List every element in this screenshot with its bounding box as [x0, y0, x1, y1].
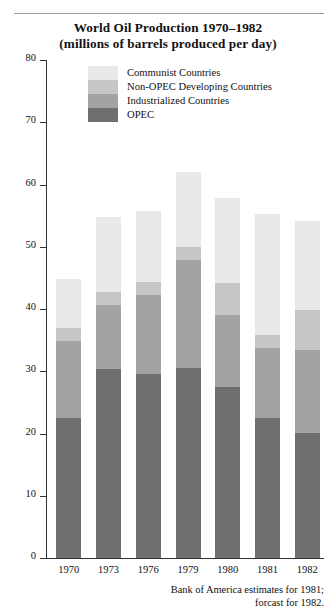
- bar-segment: [136, 282, 161, 295]
- bar-segment: [215, 283, 240, 315]
- bar-segment: [215, 198, 240, 283]
- bar-segment: [215, 315, 240, 387]
- y-axis-tick: 40: [0, 309, 46, 310]
- bar-group-1970: [56, 279, 81, 558]
- bar-segment: [96, 217, 121, 292]
- y-axis-tick-label: 10: [26, 488, 37, 499]
- y-axis-tick: 70: [0, 122, 46, 123]
- chart-footnote: Bank of America estimates for 1981; forc…: [74, 583, 324, 609]
- x-axis-label-1981: 1981: [248, 563, 288, 576]
- y-axis-tick-label: 60: [26, 177, 37, 188]
- y-axis-tick: 50: [0, 247, 46, 248]
- bars-layer: [46, 60, 324, 558]
- bar-segment: [56, 341, 81, 418]
- top-divider-rule: [14, 13, 324, 14]
- x-axis-label-1980: 1980: [208, 563, 248, 576]
- x-axis-label-1979: 1979: [168, 563, 208, 576]
- bar-segment: [136, 374, 161, 558]
- bar-group-1976: [136, 211, 161, 558]
- y-axis-tick-label: 0: [31, 550, 36, 561]
- bar-segment: [96, 292, 121, 304]
- y-axis-tick: 60: [0, 185, 46, 186]
- x-axis-label-1982: 1982: [287, 563, 327, 576]
- bar-segment: [176, 247, 201, 261]
- y-axis-tick-label: 80: [26, 52, 37, 63]
- y-axis-tick-label: 30: [26, 363, 37, 374]
- bar-group-1979: [176, 172, 201, 558]
- bar-group-1973: [96, 217, 121, 558]
- x-axis-label-1973: 1973: [89, 563, 129, 576]
- bar-segment: [215, 387, 240, 558]
- x-axis-labels: 1970197319761979198019811982: [46, 563, 324, 579]
- bar-segment: [56, 418, 81, 558]
- x-axis-label-1976: 1976: [128, 563, 168, 576]
- bar-segment: [176, 368, 201, 558]
- bar-segment: [255, 335, 280, 347]
- bar-segment: [255, 214, 280, 335]
- footnote-line-1: Bank of America estimates for 1981;: [74, 583, 324, 596]
- y-axis-tick: 80: [0, 60, 46, 61]
- bar-segment: [176, 260, 201, 368]
- y-axis-tick-label: 20: [26, 426, 37, 437]
- chart-subtitle: (millions of barrels produced per day): [0, 36, 336, 52]
- bar-segment: [255, 418, 280, 558]
- bar-segment: [295, 221, 320, 310]
- footnote-line-2: forcast for 1982.: [74, 596, 324, 609]
- y-axis-tick-label: 40: [26, 301, 37, 312]
- bar-segment: [255, 348, 280, 418]
- page-title: World Oil Production 1970–1982: [0, 20, 336, 36]
- bar-segment: [96, 369, 121, 558]
- bar-segment: [176, 172, 201, 247]
- y-axis-tick: 0: [0, 558, 46, 559]
- bar-segment: [295, 310, 320, 350]
- bar-group-1982: [295, 221, 320, 558]
- x-axis-label-1970: 1970: [49, 563, 89, 576]
- bar-segment: [56, 279, 81, 328]
- bar-segment: [136, 295, 161, 375]
- y-axis-tick: 30: [0, 371, 46, 372]
- bar-segment: [56, 328, 81, 341]
- bar-segment: [295, 350, 320, 433]
- y-axis-tick: 10: [0, 496, 46, 497]
- bar-group-1981: [255, 214, 280, 558]
- chart-page: World Oil Production 1970–1982 (millions…: [0, 0, 336, 614]
- bar-segment: [96, 305, 121, 370]
- y-axis-tick: 20: [0, 434, 46, 435]
- bar-segment: [295, 433, 320, 558]
- x-axis-line: [46, 558, 324, 559]
- y-axis-tick-label: 70: [26, 114, 37, 125]
- bar-group-1980: [215, 198, 240, 558]
- bar-segment: [136, 211, 161, 282]
- y-axis-tick-mark: [40, 558, 46, 559]
- y-axis-tick-label: 50: [26, 239, 37, 250]
- chart-title-block: World Oil Production 1970–1982 (millions…: [0, 20, 336, 52]
